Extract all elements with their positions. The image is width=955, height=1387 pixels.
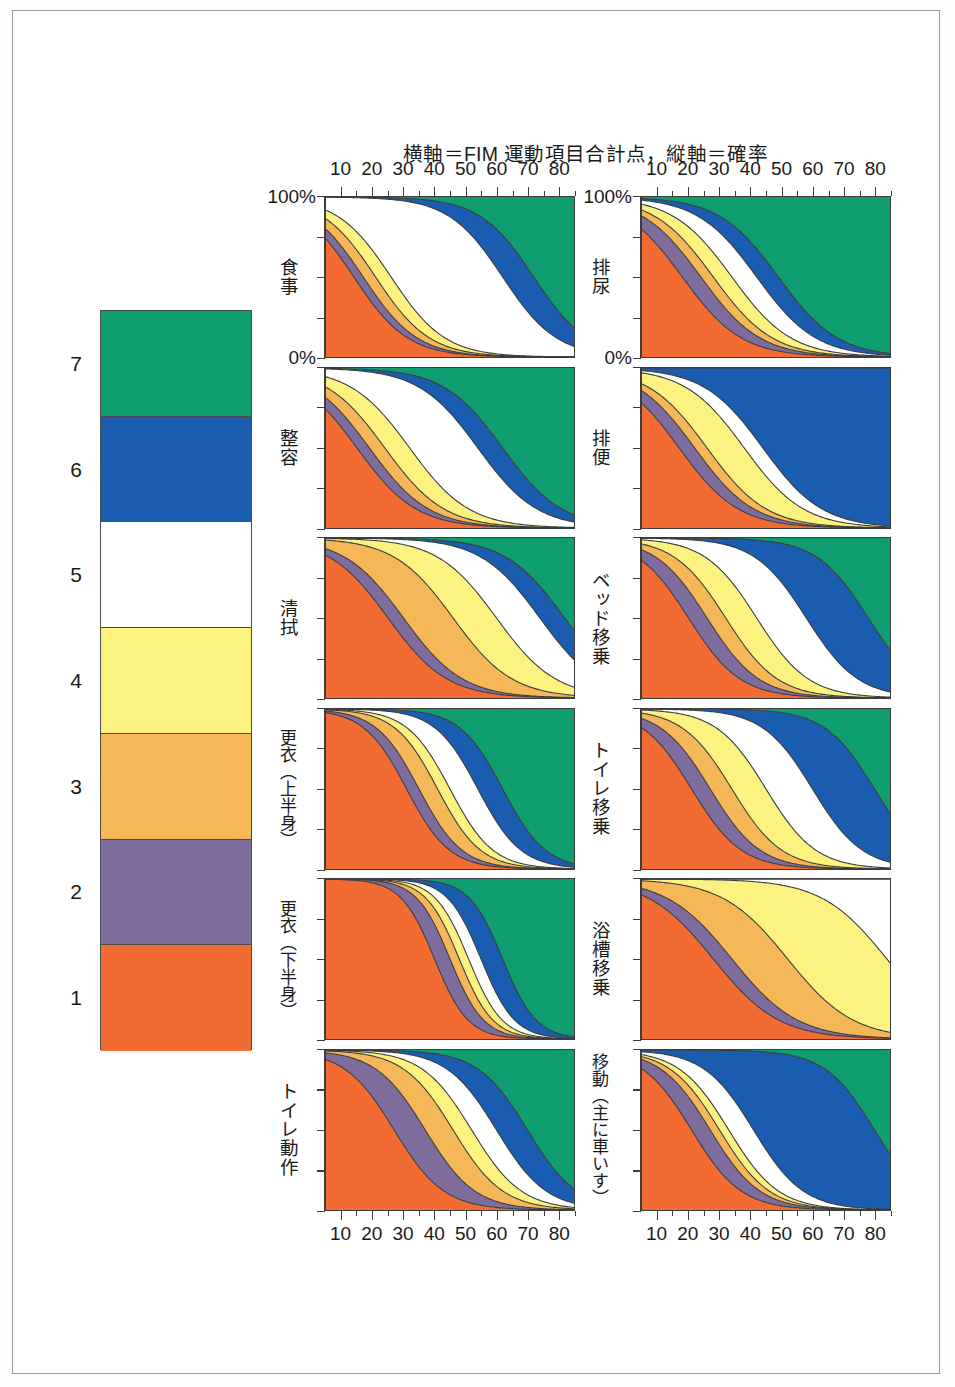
x-axis-label-70: 70 xyxy=(518,158,539,180)
x-tick-30 xyxy=(719,1211,720,1220)
x-tick-45 xyxy=(450,1211,451,1216)
y-tick-bladder-4 xyxy=(633,358,641,359)
x-tick-55 xyxy=(481,1211,482,1216)
y-tick-toileting-3 xyxy=(317,1170,325,1171)
y-tick-locomotion-3 xyxy=(633,1170,641,1171)
x-tick-10 xyxy=(657,187,658,196)
x-axis-label-40: 40 xyxy=(740,1223,761,1245)
x-axis-label-80: 80 xyxy=(549,158,570,180)
x-tick-35 xyxy=(419,191,420,196)
x-axis-label-30: 30 xyxy=(393,1223,414,1245)
y-tick-bed-transfer-4 xyxy=(633,699,641,700)
panel-dressing-lower: 更衣（下半身） xyxy=(325,878,575,1040)
x-tick-40 xyxy=(434,1211,435,1220)
y-tick-toilet-transfer-1 xyxy=(633,748,641,749)
y-tick-bathing-2 xyxy=(317,618,325,619)
x-tick-60 xyxy=(497,187,498,196)
y-tick-tub-transfer-0 xyxy=(633,878,641,879)
y-tick-bathing-3 xyxy=(317,659,325,660)
x-tick-10 xyxy=(341,187,342,196)
y-tick-dressing-upper-0 xyxy=(317,708,325,709)
panel-label-dressing-lower: 更衣（下半身） xyxy=(259,878,315,1040)
panel-label-grooming: 整容 xyxy=(259,367,315,529)
y-tick-dressing-upper-2 xyxy=(317,789,325,790)
x-tick-30 xyxy=(403,1211,404,1220)
x-axis-label-60: 60 xyxy=(802,158,823,180)
x-tick-60 xyxy=(497,1211,498,1220)
x-axis-label-30: 30 xyxy=(709,158,730,180)
plot-area-bowel xyxy=(641,367,891,529)
panel-label-meal: 食事 xyxy=(259,196,315,358)
y-tick-grooming-4 xyxy=(317,529,325,530)
x-axis-label-60: 60 xyxy=(486,1223,507,1245)
y-tick-bed-transfer-3 xyxy=(633,659,641,660)
x-tick-40 xyxy=(750,187,751,196)
legend-swatch-3 xyxy=(101,734,251,840)
x-axis-label-20: 20 xyxy=(361,158,382,180)
x-tick-55 xyxy=(481,191,482,196)
x-tick-65 xyxy=(829,191,830,196)
y-tick-locomotion-4 xyxy=(633,1211,641,1212)
x-axis-label-10: 10 xyxy=(330,1223,351,1245)
x-tick-20 xyxy=(372,1211,373,1220)
x-tick-50 xyxy=(466,1211,467,1220)
x-tick-80 xyxy=(875,1211,876,1220)
y-tick-meal-4 xyxy=(317,358,325,359)
y-tick-toilet-transfer-4 xyxy=(633,870,641,871)
y-tick-toileting-4 xyxy=(317,1211,325,1212)
x-tick-85 xyxy=(891,1211,892,1216)
panel-label-bed-transfer: ベッド移乗 xyxy=(571,537,627,699)
y-tick-bathing-4 xyxy=(317,699,325,700)
x-tick-15 xyxy=(356,1211,357,1216)
x-tick-80 xyxy=(559,187,560,196)
x-tick-15 xyxy=(356,191,357,196)
y-tick-dressing-lower-2 xyxy=(317,959,325,960)
x-tick-65 xyxy=(513,191,514,196)
x-tick-30 xyxy=(719,187,720,196)
x-axis-tick-labels: 1020304050607080 xyxy=(311,1223,589,1245)
legend-label-1: 1 xyxy=(63,987,89,1008)
y-tick-dressing-lower-0 xyxy=(317,878,325,879)
x-tick-50 xyxy=(782,1211,783,1220)
x-axis-tick-labels: 1020304050607080 xyxy=(311,158,589,180)
y-tick-bed-transfer-0 xyxy=(633,537,641,538)
x-tick-20 xyxy=(688,187,689,196)
panel-bladder: 排尿1020304050607080100%0% xyxy=(641,196,891,358)
legend-swatch-4 xyxy=(101,628,251,734)
y-tick-tub-transfer-1 xyxy=(633,919,641,920)
y-tick-bathing-1 xyxy=(317,578,325,579)
x-axis-label-80: 80 xyxy=(865,158,886,180)
plot-area-grooming xyxy=(325,367,575,529)
y-tick-bowel-0 xyxy=(633,367,641,368)
panel-bed-transfer: ベッド移乗 xyxy=(641,537,891,699)
x-axis-tick-labels: 1020304050607080 xyxy=(627,1223,905,1245)
legend-label-4: 4 xyxy=(63,670,89,691)
panel-label-locomotion: 移動（主に車いす） xyxy=(571,1049,627,1211)
panel-tub-transfer: 浴槽移乗 xyxy=(641,878,891,1040)
y-tick-dressing-lower-4 xyxy=(317,1040,325,1041)
legend-label-6: 6 xyxy=(63,459,89,480)
y-tick-meal-3 xyxy=(317,318,325,319)
y-tick-grooming-1 xyxy=(317,407,325,408)
panel-label-dressing-upper: 更衣（上半身） xyxy=(259,708,315,870)
y-tick-tub-transfer-3 xyxy=(633,1000,641,1001)
x-tick-30 xyxy=(403,187,404,196)
x-tick-50 xyxy=(782,187,783,196)
y-tick-locomotion-2 xyxy=(633,1130,641,1131)
y-tick-meal-1 xyxy=(317,237,325,238)
legend-swatch-1 xyxy=(101,945,251,1051)
x-axis-tick-labels: 1020304050607080 xyxy=(627,158,905,180)
y-tick-locomotion-0 xyxy=(633,1049,641,1050)
x-axis-label-60: 60 xyxy=(802,1223,823,1245)
y-tick-dressing-lower-3 xyxy=(317,1000,325,1001)
x-tick-75 xyxy=(860,1211,861,1216)
legend-label-3: 3 xyxy=(63,776,89,797)
panel-label-bowel: 排便 xyxy=(571,367,627,529)
x-axis-ticks-bottom xyxy=(325,1211,575,1220)
y-tick-bed-transfer-2 xyxy=(633,618,641,619)
plot-area-bathing xyxy=(325,537,575,699)
panel-bowel: 排便 xyxy=(641,367,891,529)
x-tick-65 xyxy=(513,1211,514,1216)
y-tick-toilet-transfer-2 xyxy=(633,789,641,790)
x-tick-15 xyxy=(672,1211,673,1216)
